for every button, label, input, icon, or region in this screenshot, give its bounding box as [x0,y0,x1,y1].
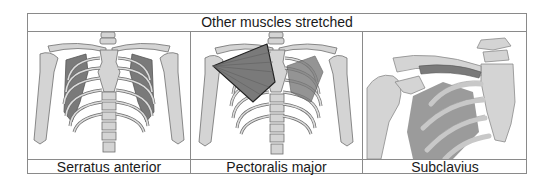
label-pectoralis-major: Pectoralis major [191,159,362,175]
muscles-table: Other muscles stretched [27,13,527,174]
serratus-anterior-illustration [28,32,190,159]
subclavius-illustration [363,32,527,159]
label-subclavius: Subclavius [363,159,527,175]
pectoralis-major-illustration [191,32,362,159]
table-header: Other muscles stretched [28,14,526,32]
label-serratus-anterior: Serratus anterior [28,159,190,175]
